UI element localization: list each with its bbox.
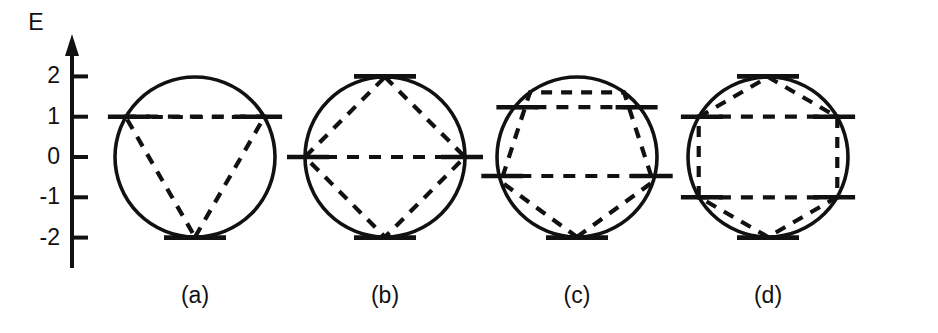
frost-circle <box>115 77 275 237</box>
axis-tick-label: 0 <box>47 143 60 169</box>
axis-tick-label: -1 <box>40 183 60 209</box>
axis-tick-label: 1 <box>47 103 60 129</box>
axis-arrow-icon <box>65 34 79 56</box>
axis-tick-label: 2 <box>47 62 60 88</box>
panel-a <box>108 77 282 238</box>
frost-circle <box>497 77 657 237</box>
inscribed-polygon <box>699 77 838 237</box>
axis-tick-label: -2 <box>40 224 60 250</box>
panel-caption-b: (b) <box>371 282 399 308</box>
panel-b <box>287 76 483 237</box>
panels-group <box>108 76 855 237</box>
panel-caption-a: (a) <box>181 282 209 308</box>
axis-title-energy: E <box>28 9 43 35</box>
frost-circle <box>688 77 848 237</box>
panel-captions: (a)(b)(c)(d) <box>181 282 782 308</box>
panel-caption-d: (d) <box>754 282 782 308</box>
energy-axis: 210-1-2E <box>28 9 88 268</box>
frost-diagram-canvas: 210-1-2E (a)(b)(c)(d) <box>0 0 938 333</box>
panel-d <box>681 76 855 237</box>
panel-c <box>481 77 672 238</box>
frost-circle-figure: 210-1-2E (a)(b)(c)(d) <box>0 0 938 333</box>
panel-caption-c: (c) <box>564 282 591 308</box>
